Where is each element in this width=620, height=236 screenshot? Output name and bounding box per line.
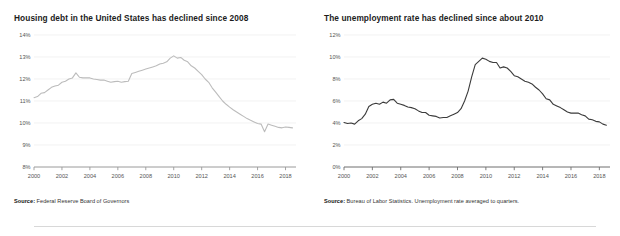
x-axis-tick-label: 2014 (223, 172, 235, 178)
plot-area-unemployment-rate: 0%2%4%6%8%10%12%200020022004200620082010… (324, 31, 612, 189)
x-axis-tick-label: 2002 (56, 172, 68, 178)
source-note-unemployment-rate: Source: Bureau of Labor Statistics. Unem… (324, 198, 612, 204)
y-axis-tick-label: 12% (19, 76, 30, 82)
y-axis-tick-label: 10% (329, 54, 340, 60)
x-axis-tick-label: 2004 (84, 172, 96, 178)
source-text: Bureau of Labor Statistics. Unemployment… (345, 198, 519, 204)
chart-panel-housing-debt: Housing debt in the United States has de… (0, 0, 310, 222)
x-axis-tick-label: 2016 (565, 172, 577, 178)
x-axis-tick-label: 2006 (423, 172, 435, 178)
plot-area-housing-debt: 8%9%10%11%12%13%14%200020022004200620082… (14, 31, 298, 189)
x-axis-tick-label: 2008 (451, 172, 463, 178)
x-axis-tick-label: 2008 (140, 172, 152, 178)
footer-divider (34, 226, 596, 227)
x-axis-tick-label: 2010 (168, 172, 180, 178)
y-axis-tick-label: 0% (332, 164, 340, 170)
x-axis-tick-label: 2012 (508, 172, 520, 178)
y-axis-tick-label: 12% (329, 32, 340, 38)
x-axis-tick-label: 2014 (536, 172, 548, 178)
source-note-housing-debt: Source: Federal Reserve Board of Governo… (14, 198, 298, 204)
x-axis-tick-label: 2010 (480, 172, 492, 178)
chart-title-unemployment-rate: The unemployment rate has declined since… (324, 14, 612, 24)
x-axis-tick-label: 2018 (279, 172, 291, 178)
y-axis-tick-label: 13% (19, 54, 30, 60)
y-axis-tick-label: 9% (22, 142, 30, 148)
source-label: Source: (14, 198, 35, 204)
chart-panel-unemployment-rate: The unemployment rate has declined since… (310, 0, 620, 222)
x-axis-tick-label: 2000 (28, 172, 40, 178)
x-axis-tick-label: 2012 (195, 172, 207, 178)
y-axis-tick-label: 8% (332, 76, 340, 82)
x-axis-tick-label: 2004 (395, 172, 407, 178)
y-axis-tick-label: 8% (22, 164, 30, 170)
source-text: Federal Reserve Board of Governors (35, 198, 129, 204)
data-line-unemployment-rate (344, 58, 606, 125)
y-axis-tick-label: 10% (19, 120, 30, 126)
y-axis-tick-label: 14% (19, 32, 30, 38)
x-axis-tick-label: 2018 (593, 172, 605, 178)
y-axis-tick-label: 2% (332, 142, 340, 148)
line-chart-housing-debt: 8%9%10%11%12%13%14%200020022004200620082… (14, 31, 298, 189)
data-line-housing-debt (34, 56, 293, 132)
chart-title-housing-debt: Housing debt in the United States has de… (14, 14, 298, 24)
y-axis-tick-label: 6% (332, 98, 340, 104)
source-label: Source: (324, 198, 345, 204)
line-chart-unemployment-rate: 0%2%4%6%8%10%12%200020022004200620082010… (324, 31, 612, 189)
x-axis-tick-label: 2016 (251, 172, 263, 178)
y-axis-tick-label: 4% (332, 120, 340, 126)
x-axis-tick-label: 2006 (112, 172, 124, 178)
x-axis-tick-label: 2002 (366, 172, 378, 178)
x-axis-tick-label: 2000 (338, 172, 350, 178)
y-axis-tick-label: 11% (20, 98, 31, 104)
chart-panels: Housing debt in the United States has de… (0, 0, 620, 222)
